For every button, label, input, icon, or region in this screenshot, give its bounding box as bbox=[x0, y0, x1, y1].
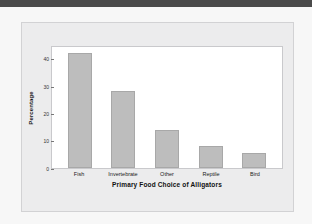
bar-slot bbox=[60, 47, 99, 168]
x-axis-title: Primary Food Choice of Alligators bbox=[51, 181, 283, 188]
y-tick-label: 30 bbox=[43, 85, 49, 90]
bar-fish bbox=[68, 53, 92, 168]
bar-slot bbox=[235, 47, 274, 168]
bar-bird bbox=[242, 153, 266, 168]
bar-invertebrate bbox=[111, 91, 135, 168]
y-tick-label: 40 bbox=[43, 57, 49, 62]
bar-slot bbox=[191, 47, 230, 168]
x-tick-label-invertebrate: Invertebrate bbox=[103, 171, 143, 177]
y-tick-mark bbox=[51, 59, 54, 60]
plot-area bbox=[52, 47, 282, 168]
x-label-slot: Fish bbox=[59, 171, 99, 177]
x-tick-label-fish: Fish bbox=[59, 171, 99, 177]
x-axis-tick-labels: Fish Invertebrate Other Reptile Bird bbox=[51, 171, 283, 177]
bar-other bbox=[155, 130, 179, 168]
bar-slot bbox=[147, 47, 186, 168]
y-tick-label: 20 bbox=[43, 112, 49, 117]
bar-reptile bbox=[199, 146, 223, 168]
x-label-slot: Invertebrate bbox=[103, 171, 143, 177]
y-tick-label: 0 bbox=[46, 167, 49, 172]
y-tick-label: 10 bbox=[43, 139, 49, 144]
y-tick-mark bbox=[51, 114, 54, 115]
y-tick-mark bbox=[51, 87, 54, 88]
x-label-slot: Bird bbox=[235, 171, 275, 177]
bar-slot bbox=[104, 47, 143, 168]
top-dark-band bbox=[0, 0, 312, 7]
y-axis: 010203040 bbox=[36, 46, 51, 169]
bars-layer bbox=[52, 47, 282, 168]
plot-frame bbox=[51, 46, 283, 169]
y-axis-title: Percentage bbox=[26, 46, 36, 169]
x-label-slot: Other bbox=[147, 171, 187, 177]
x-tick-label-reptile: Reptile bbox=[191, 171, 231, 177]
x-tick-label-other: Other bbox=[147, 171, 187, 177]
y-tick-mark bbox=[51, 141, 54, 142]
x-label-slot: Reptile bbox=[191, 171, 231, 177]
y-tick-mark bbox=[51, 169, 54, 170]
x-tick-label-bird: Bird bbox=[235, 171, 275, 177]
y-axis-title-label: Percentage bbox=[28, 91, 34, 124]
